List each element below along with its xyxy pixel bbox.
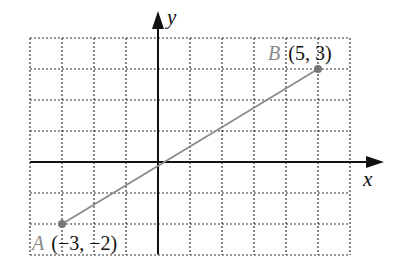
point-a-marker bbox=[58, 220, 66, 228]
y-axis-label: y bbox=[165, 5, 177, 29]
y-axis-arrow-icon bbox=[152, 11, 164, 29]
segment-ab bbox=[62, 69, 318, 224]
point-b-name: B bbox=[268, 42, 280, 64]
point-b-marker bbox=[314, 65, 322, 73]
x-axis bbox=[30, 156, 384, 168]
point-b-label: B (5, 3) bbox=[268, 42, 332, 65]
point-a-name: A bbox=[30, 232, 45, 254]
point-a-coords: (−3, −2) bbox=[51, 232, 117, 255]
point-b-coords: (5, 3) bbox=[288, 42, 331, 65]
point-a-label: A (−3, −2) bbox=[30, 232, 117, 255]
y-axis bbox=[152, 11, 164, 254]
coordinate-plane: y x B (5, 3) A (−3, −2) bbox=[0, 0, 399, 273]
x-axis-label: x bbox=[362, 167, 373, 191]
